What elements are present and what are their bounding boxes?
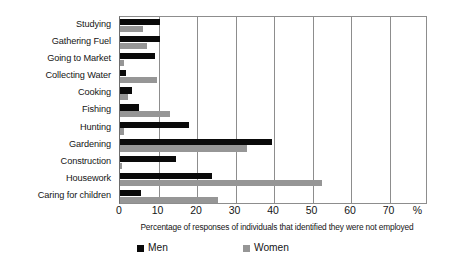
category-label: Cooking: [0, 84, 115, 101]
bar-group: [120, 17, 426, 34]
bar-men: [120, 70, 126, 76]
bar-men: [120, 122, 189, 128]
bar-men: [120, 190, 141, 196]
bar-women: [120, 111, 170, 117]
bar-group: [120, 171, 426, 188]
plot-area: [119, 16, 427, 204]
x-axis-ticks: 010203040506070%: [119, 205, 427, 221]
bar-women: [120, 197, 218, 203]
x-axis-title: Percentage of responses of individuals t…: [119, 223, 435, 231]
legend-item-men[interactable]: Men: [137, 243, 168, 253]
legend-swatch-icon: [243, 245, 250, 252]
x-tick-label: 50: [306, 205, 318, 216]
x-tick-label: 20: [190, 205, 202, 216]
legend-label: Men: [148, 243, 168, 253]
x-tick-label: 10: [152, 205, 164, 216]
category-label: Gathering Fuel: [0, 33, 115, 50]
legend-swatch-icon: [137, 245, 144, 252]
category-label: Going to Market: [0, 50, 115, 67]
bars-layer: [120, 17, 426, 203]
x-tick-label: 70: [383, 205, 395, 216]
x-tick-label: 30: [229, 205, 241, 216]
bar-group: [120, 85, 426, 102]
legend-label: Women: [254, 243, 289, 253]
grouped-bar-chart: StudyingGathering FuelGoing to MarketCol…: [0, 0, 458, 270]
bar-women: [120, 145, 247, 151]
bar-women: [120, 60, 124, 66]
bar-men: [120, 156, 176, 162]
x-axis-unit-label: %: [413, 205, 422, 216]
bar-women: [120, 43, 147, 49]
bar-women: [120, 94, 128, 100]
category-axis-labels: StudyingGathering FuelGoing to MarketCol…: [0, 16, 115, 204]
legend-item-women[interactable]: Women: [243, 243, 289, 253]
bar-women: [120, 163, 122, 169]
x-tick-label: 40: [267, 205, 279, 216]
bar-men: [120, 53, 155, 59]
bar-group: [120, 34, 426, 51]
x-tick-label: 60: [344, 205, 356, 216]
bar-group: [120, 102, 426, 119]
bar-women: [120, 180, 322, 186]
category-label: Gardening: [0, 136, 115, 153]
plot-wrapper: StudyingGathering FuelGoing to MarketCol…: [0, 0, 458, 216]
bar-women: [120, 26, 143, 32]
chart-legend: MenWomen: [0, 243, 458, 263]
bar-men: [120, 104, 139, 110]
category-label: Fishing: [0, 101, 115, 118]
category-label: Hunting: [0, 119, 115, 136]
category-label: Construction: [0, 153, 115, 170]
bar-men: [120, 139, 272, 145]
category-label: Housework: [0, 170, 115, 187]
bar-group: [120, 51, 426, 68]
bar-women: [120, 77, 157, 83]
bar-men: [120, 173, 212, 179]
category-label: Caring for children: [0, 187, 115, 204]
bar-group: [120, 68, 426, 85]
category-label: Collecting Water: [0, 67, 115, 84]
category-label: Studying: [0, 16, 115, 33]
bar-group: [120, 188, 426, 205]
bar-group: [120, 120, 426, 137]
bar-women: [120, 128, 124, 134]
bar-men: [120, 87, 132, 93]
bar-group: [120, 154, 426, 171]
bar-men: [120, 19, 160, 25]
x-tick-label: 0: [116, 205, 122, 216]
bar-group: [120, 137, 426, 154]
bar-men: [120, 36, 160, 42]
